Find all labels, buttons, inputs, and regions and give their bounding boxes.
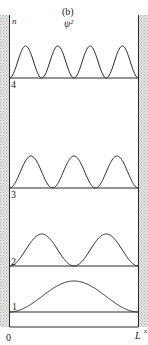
psi-squared-curve-n1 [10,281,139,312]
n-axis-label: n [12,17,17,26]
level-2-label: 2 [11,257,16,267]
x-axis-label: x [144,328,147,335]
x-origin-label: 0 [6,333,11,343]
level-4-label: 4 [11,80,16,90]
level-1-label: 1 [12,302,17,312]
psi-squared-label: ψ² [64,19,73,29]
level-3-label: 3 [11,190,16,200]
x-end-label: L [135,331,141,341]
psi-squared-curve-n3 [10,156,139,188]
psi-squared-curve-n4 [10,46,139,78]
panel-label: (b) [62,7,74,17]
particle-in-box-diagram [0,0,148,345]
left-wall [0,15,9,327]
right-wall [139,15,148,327]
psi-squared-curve-n2 [10,234,139,266]
